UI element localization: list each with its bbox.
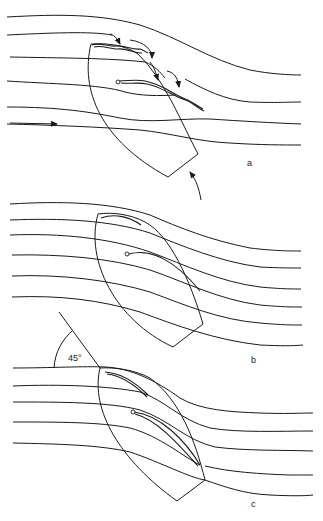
sails-c: [105, 372, 200, 466]
sails-b: [101, 216, 200, 291]
panel-label-c: c: [251, 499, 256, 509]
panel-b: b: [10, 203, 303, 365]
sail-flow-diagram: a b 45°: [0, 0, 323, 521]
angle-indicator: 45°: [54, 312, 100, 368]
turbulent-sails-a: [92, 44, 204, 111]
hull-a: [88, 44, 198, 177]
hull-b: [95, 213, 203, 347]
turning-arrow: [190, 172, 201, 200]
panel-a: a: [7, 15, 301, 200]
streamlines-a: [7, 15, 301, 145]
panel-label-b: b: [251, 355, 256, 365]
streamlines-b: [10, 203, 303, 346]
panel-label-a: a: [247, 158, 252, 168]
streamlines-c: [13, 367, 313, 496]
angle-label: 45°: [68, 353, 82, 363]
